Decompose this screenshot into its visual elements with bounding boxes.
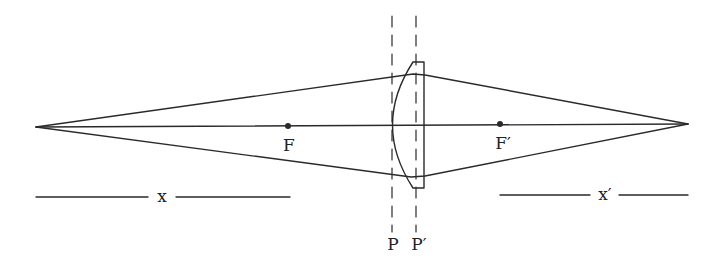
optics-diagram: F F′ x x′ P P′	[0, 0, 724, 267]
label-f: F	[283, 137, 295, 154]
lower-ray	[36, 124, 688, 177]
optical-axis	[36, 124, 688, 127]
diagram-drawing	[0, 0, 724, 267]
label-x-prime: x′	[598, 186, 611, 203]
label-f-prime: F′	[495, 135, 511, 152]
label-p: P	[387, 236, 398, 253]
label-x: x	[157, 188, 167, 205]
focal-point-f-dot	[285, 123, 291, 129]
label-p-prime: P′	[411, 236, 426, 253]
upper-ray	[36, 74, 688, 127]
focal-point-f-prime-dot	[497, 121, 503, 127]
